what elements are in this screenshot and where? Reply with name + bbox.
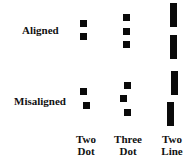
column-label-line: Line bbox=[152, 145, 185, 157]
dot-shape bbox=[80, 20, 87, 27]
row-label-misaligned: Misaligned bbox=[14, 95, 66, 107]
column-label-three-dot: Three Dot bbox=[108, 133, 148, 157]
column-label-two-dot: Two Dot bbox=[66, 133, 106, 157]
column-label-line: Three bbox=[108, 133, 148, 145]
column-label-line: Two bbox=[152, 133, 185, 145]
line-shape bbox=[170, 35, 177, 59]
column-label-line: Two bbox=[66, 133, 106, 145]
dot-shape bbox=[124, 82, 131, 89]
column-label-line: Dot bbox=[108, 145, 148, 157]
dot-shape bbox=[123, 14, 130, 21]
dot-shape bbox=[124, 109, 131, 116]
dot-shape bbox=[83, 102, 90, 109]
row-label-aligned: Aligned bbox=[22, 24, 59, 36]
dot-shape bbox=[80, 88, 87, 95]
dot-shape bbox=[123, 28, 130, 35]
dot-shape bbox=[123, 41, 130, 48]
line-shape bbox=[167, 102, 174, 126]
dot-shape bbox=[120, 95, 127, 102]
column-label-line: Dot bbox=[66, 145, 106, 157]
column-label-two-line: Two Line bbox=[152, 133, 185, 157]
line-shape bbox=[171, 71, 178, 95]
dot-shape bbox=[80, 33, 87, 40]
line-shape bbox=[170, 3, 177, 27]
